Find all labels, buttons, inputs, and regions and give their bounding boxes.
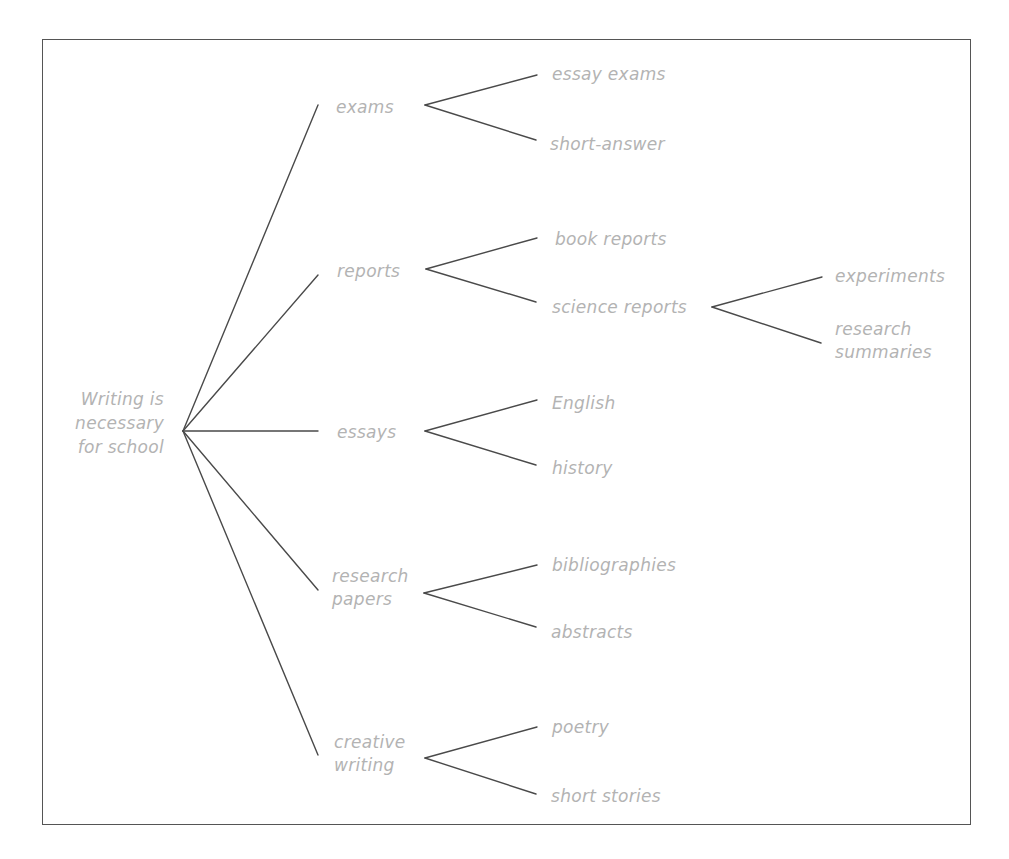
connector-science-research-summaries	[712, 307, 821, 343]
node-history: history	[552, 457, 613, 480]
connector-root-creative-writing	[183, 431, 318, 755]
node-poetry: poetry	[552, 716, 609, 739]
connector-exams-essay-exams	[425, 75, 537, 105]
node-short-answer: short-answer	[550, 133, 665, 156]
node-experiments: experiments	[835, 265, 945, 288]
connector-exams-short-answer	[425, 105, 536, 140]
node-research-summaries: research summaries	[835, 318, 932, 364]
node-reports: reports	[337, 260, 400, 283]
connector-creative-short-stories	[425, 758, 536, 794]
connector-essays-history	[425, 431, 536, 465]
node-abstracts: abstracts	[551, 621, 633, 644]
connector-essays-english	[425, 400, 537, 431]
node-essays: essays	[337, 421, 396, 444]
root-line-2: necessary	[62, 411, 164, 435]
node-research-papers: research papers	[332, 565, 409, 611]
root-line-3: for school	[62, 435, 164, 459]
node-creative-writing: creative writing	[334, 731, 406, 777]
connector-reports-science-reports	[426, 269, 536, 302]
root-node: Writing is necessary for school	[62, 387, 164, 459]
connector-root-reports	[183, 275, 318, 431]
connector-creative-poetry	[425, 727, 537, 758]
node-short-stories: short stories	[551, 785, 661, 808]
connector-root-research-papers	[183, 431, 318, 590]
connector-research-bibliographies	[424, 565, 537, 593]
node-science-reports: science reports	[552, 296, 687, 319]
node-english: English	[552, 392, 615, 415]
root-line-1: Writing is	[62, 387, 164, 411]
connector-science-experiments	[712, 277, 822, 307]
connector-reports-book-reports	[426, 238, 537, 269]
node-book-reports: book reports	[555, 228, 667, 251]
node-essay-exams: essay exams	[552, 63, 666, 86]
node-exams: exams	[336, 96, 394, 119]
node-bibliographies: bibliographies	[552, 554, 676, 577]
connector-research-abstracts	[424, 593, 536, 627]
connector-root-exams	[183, 105, 318, 431]
